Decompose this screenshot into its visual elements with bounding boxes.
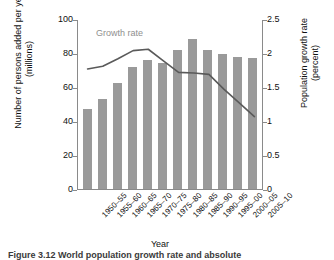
growth-rate-annotation: Growth rate	[96, 28, 143, 38]
growth-rate-polyline	[88, 49, 255, 116]
y-axis-left-tick-label: 20	[48, 150, 73, 160]
y-axis-right-tick-label: 1.5	[267, 82, 280, 92]
figure-caption: Figure 3.12 World population growth rate…	[8, 250, 334, 260]
growth-rate-line-series	[78, 20, 264, 190]
tick-mark	[263, 190, 267, 191]
y-axis-right-tick-label: 2	[267, 48, 272, 58]
y-axis-left-title: Number of persons added per year (millio…	[13, 0, 35, 135]
y-axis-left-tick-label: 0	[48, 184, 73, 194]
y-axis-left-tick-label: 100	[48, 14, 73, 24]
y-axis-left-ticks: 020406080100	[48, 20, 73, 190]
x-axis-title: Year	[60, 239, 260, 250]
y-axis-left-tick-label: 40	[48, 116, 73, 126]
plot-area	[77, 20, 263, 190]
y-axis-right-tick-label: 1	[267, 116, 272, 126]
y-axis-right-ticks: 00.511.522.5	[267, 20, 295, 190]
y-axis-right-title: Population growth rate (percent)	[299, 0, 321, 133]
y-axis-right-tick-label: 2.5	[267, 14, 280, 24]
y-axis-right-tick-label: 0.5	[267, 150, 280, 160]
y-axis-left-tick-label: 60	[48, 82, 73, 92]
x-axis-category-labels: 1950–551955–601960–651965–701970–751975–…	[77, 191, 263, 239]
y-axis-left-tick-label: 80	[48, 48, 73, 58]
